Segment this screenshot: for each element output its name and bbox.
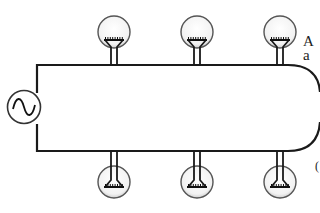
bottom-wire	[37, 122, 320, 151]
bulb-glass	[98, 16, 130, 48]
side-text-line-2: a	[303, 48, 310, 63]
circuit-diagram	[0, 0, 320, 213]
bulb-bottom-1	[98, 151, 130, 198]
top-wire	[37, 65, 320, 93]
bulb-glass	[181, 16, 213, 48]
wires	[37, 65, 320, 151]
bulb-glass	[264, 16, 296, 48]
ac-source	[8, 91, 41, 124]
side-text-line-3: (	[315, 160, 319, 172]
bulb-bottom-3	[264, 151, 296, 198]
bulb-top-2	[181, 16, 213, 65]
bulb-top-3	[264, 16, 296, 65]
bulb-bottom-2	[181, 151, 213, 198]
bulb-top-1	[98, 16, 130, 65]
bulb-glass	[181, 166, 213, 198]
bulb-glass	[264, 166, 296, 198]
bulb-glass	[98, 166, 130, 198]
